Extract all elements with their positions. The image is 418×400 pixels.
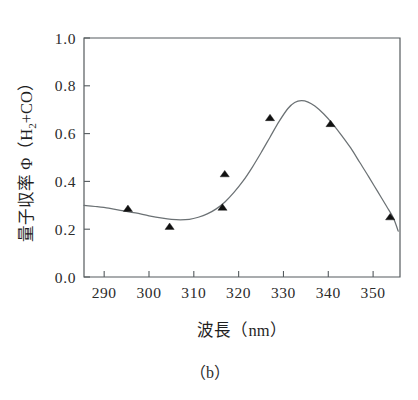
x-tick-label: 340 bbox=[316, 284, 341, 301]
x-tick-label: 350 bbox=[361, 284, 386, 301]
y-axis-title-main: 量子収率 Φ（H bbox=[17, 129, 36, 242]
figure-caption: （b） bbox=[190, 364, 230, 381]
y-tick-label: 0.8 bbox=[55, 77, 76, 94]
x-axis-title: 波長（nm） bbox=[197, 321, 286, 340]
y-tick-label: 0.4 bbox=[55, 173, 76, 190]
x-axis-ticks: 290300310320330340350 bbox=[92, 271, 386, 301]
svg-text:量子収率 Φ（H2+CO）: 量子収率 Φ（H2+CO） bbox=[17, 74, 38, 242]
x-tick-label: 290 bbox=[92, 284, 117, 301]
y-tick-label: 0.0 bbox=[55, 269, 76, 286]
figure-container: 290300310320330340350 0.00.20.40.60.81.0… bbox=[0, 0, 418, 400]
y-axis-title: 量子収率 Φ（H2+CO） bbox=[17, 74, 38, 242]
y-tick-label: 0.2 bbox=[55, 221, 76, 238]
y-tick-label: 1.0 bbox=[55, 30, 76, 47]
data-point-marker bbox=[265, 114, 274, 120]
x-tick-label: 320 bbox=[226, 284, 251, 301]
quantum-yield-chart: 290300310320330340350 0.00.20.40.60.81.0… bbox=[0, 0, 418, 400]
data-point-marker bbox=[165, 223, 174, 229]
data-point-marker bbox=[220, 170, 229, 176]
data-point-marker bbox=[326, 120, 335, 126]
y-axis-title-tail: +CO） bbox=[17, 74, 36, 123]
y-tick-label: 0.6 bbox=[55, 125, 76, 142]
x-tick-label: 330 bbox=[271, 284, 296, 301]
y-axis-ticks: 0.00.20.40.60.81.0 bbox=[55, 30, 90, 286]
chart-axes bbox=[84, 38, 400, 277]
x-tick-label: 310 bbox=[181, 284, 206, 301]
data-point-markers bbox=[123, 114, 394, 229]
x-tick-label: 300 bbox=[136, 284, 161, 301]
data-point-marker bbox=[123, 205, 132, 211]
